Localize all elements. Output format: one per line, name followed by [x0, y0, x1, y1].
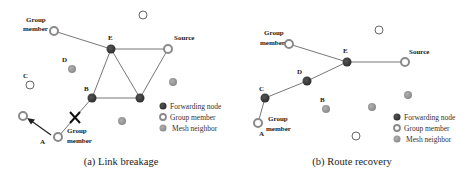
- legend-forwarding-icon: [394, 114, 401, 121]
- edge-groupmember-e: [54, 31, 111, 49]
- legend-mesh-label: Mesh neighbor: [172, 124, 218, 133]
- label-group-member-bottom: Group: [67, 127, 87, 135]
- group-member-a-icon: [254, 119, 262, 127]
- label-source: Source: [174, 34, 194, 42]
- panel-a-link-breakage: Group member E Source D C B A Group memb…: [19, 11, 222, 168]
- legend-group-member-icon: [394, 125, 400, 131]
- empty-node-c-icon: [26, 81, 34, 89]
- mesh-neighbor-icon: [169, 78, 177, 86]
- edge-e-d: [307, 62, 347, 81]
- label-a: A: [40, 138, 45, 146]
- group-member-top-icon: [50, 27, 58, 35]
- source-node-icon: [164, 45, 172, 53]
- legend-forwarding-icon: [160, 103, 167, 110]
- label-b: B: [320, 96, 325, 104]
- legend-mesh-icon: [394, 136, 401, 143]
- legend-mesh-icon: [160, 125, 167, 132]
- group-member-top-icon: [285, 40, 293, 48]
- group-member-a-new-icon: [19, 112, 27, 120]
- label-group-member-top: Group: [26, 16, 46, 24]
- mesh-neighbor-icon: [368, 103, 376, 111]
- caption-b: (b) Route recovery: [312, 156, 392, 168]
- diagram-canvas: Group member E Source D C B A Group memb…: [0, 0, 474, 179]
- movement-arrow-icon: [27, 118, 51, 135]
- label-group-member-bottom-2: member: [67, 137, 92, 145]
- empty-node-icon: [352, 132, 360, 140]
- mesh-neighbor-b-icon: [322, 105, 330, 113]
- legend-forwarding-label: Forwarding node: [404, 113, 456, 122]
- edge-source-fwd: [140, 49, 168, 98]
- legend-group-member-label: Group member: [404, 124, 450, 133]
- label-d: D: [62, 56, 67, 64]
- label-group-member-top: Group: [264, 29, 284, 37]
- forwarding-node-c-icon: [261, 94, 270, 103]
- forwarding-node-e-icon: [343, 58, 352, 67]
- empty-node-icon: [375, 26, 383, 34]
- label-c: C: [23, 72, 28, 80]
- forwarding-node-d-icon: [303, 77, 312, 86]
- legend-forwarding-label: Forwarding node: [170, 102, 222, 111]
- legend-group-member-icon: [160, 114, 166, 120]
- label-group-member-bottom-2: member: [266, 125, 291, 133]
- label-group-member-bottom: Group: [268, 115, 288, 123]
- label-b: B: [84, 85, 89, 93]
- label-group-member-top-2: member: [23, 25, 48, 33]
- mesh-neighbor-icon: [118, 117, 126, 125]
- mesh-neighbor-icon: [404, 91, 412, 99]
- mesh-neighbor-d-icon: [68, 65, 76, 73]
- legend-b: Forwarding node Group member Mesh neighb…: [394, 113, 457, 144]
- label-d: D: [297, 68, 302, 76]
- group-member-bottom-icon: [54, 133, 62, 141]
- label-a: A: [259, 130, 264, 138]
- forwarding-node-b-icon: [88, 94, 97, 103]
- label-e: E: [108, 34, 113, 42]
- label-group-member-top-2: member: [260, 39, 285, 47]
- label-c: C: [259, 85, 264, 93]
- edge-e-fwd: [111, 49, 140, 98]
- label-source: Source: [409, 48, 429, 56]
- source-node-icon: [401, 58, 409, 66]
- legend-a: Forwarding node Group member Mesh neighb…: [160, 102, 223, 133]
- edge-e-b: [92, 49, 111, 98]
- empty-node-icon: [139, 11, 147, 19]
- caption-a: (a) Link breakage: [84, 156, 159, 168]
- break-x-icon: [70, 112, 80, 123]
- label-e: E: [343, 47, 348, 55]
- legend-group-member-label: Group member: [170, 113, 216, 122]
- edge-groupmember-e: [289, 44, 347, 62]
- panel-b-route-recovery: Group member E Source D C B A Group memb…: [254, 26, 456, 168]
- forwarding-node-e-icon: [107, 45, 116, 54]
- edge-d-c: [265, 81, 307, 98]
- forwarding-node-icon: [136, 94, 145, 103]
- legend-mesh-label: Mesh neighbor: [406, 135, 452, 144]
